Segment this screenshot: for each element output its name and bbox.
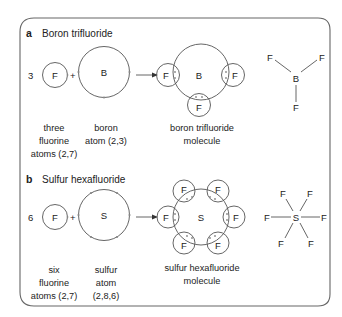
svg-text:F: F (308, 238, 314, 249)
coefficient: 3 (28, 70, 33, 81)
svg-text:S: S (198, 212, 204, 223)
svg-text:F: F (264, 212, 270, 223)
svg-text:F: F (321, 212, 327, 223)
svg-text:F: F (319, 52, 325, 63)
svg-text:molecule: molecule (184, 276, 221, 286)
label-reactant2: sulfur atom (2,8,6) (93, 265, 120, 301)
svg-text:F: F (181, 184, 187, 195)
svg-text:F: F (215, 184, 221, 195)
section-title: Sulfur hexafluoride (42, 174, 126, 185)
svg-text:B: B (293, 73, 299, 84)
svg-text:S: S (293, 212, 299, 223)
svg-text:six: six (48, 265, 60, 275)
svg-text:atom: atom (96, 278, 117, 288)
svg-text:(2,8,6): (2,8,6) (93, 291, 120, 301)
section-letter: a (26, 27, 32, 39)
svg-text:F: F (232, 70, 238, 81)
svg-text:boron: boron (94, 123, 118, 133)
svg-text:boron trifluoride: boron trifluoride (170, 123, 234, 133)
section-letter: b (26, 173, 32, 185)
svg-text:B: B (101, 67, 107, 78)
svg-text:fluorine: fluorine (39, 278, 69, 288)
svg-text:sulfur: sulfur (95, 265, 117, 275)
svg-text:F: F (293, 102, 299, 113)
svg-text:atoms (2,7): atoms (2,7) (31, 149, 77, 159)
svg-text:F: F (196, 102, 202, 113)
covalent-bonding-diagram: a Boron trifluoride 3 F + B B F (0, 0, 342, 317)
svg-text:F: F (233, 212, 239, 223)
coefficient: 6 (28, 212, 33, 223)
svg-text:F: F (163, 212, 169, 223)
section-title: Boron trifluoride (42, 28, 113, 39)
svg-text:F: F (267, 52, 273, 63)
svg-text:sulfur hexafluoride: sulfur hexafluoride (164, 263, 239, 273)
svg-text:F: F (307, 188, 313, 199)
svg-text:F: F (215, 240, 221, 251)
svg-text:atom (2,3): atom (2,3) (85, 136, 127, 146)
svg-text:F: F (278, 238, 284, 249)
svg-text:F: F (181, 240, 187, 251)
svg-text:F: F (52, 70, 58, 81)
svg-text:molecule: molecule (184, 136, 221, 146)
plus-sign: + (70, 70, 76, 81)
svg-text:B: B (196, 70, 202, 81)
svg-text:S: S (101, 210, 107, 221)
svg-text:F: F (163, 70, 169, 81)
svg-text:three: three (44, 123, 65, 133)
svg-text:F: F (280, 188, 286, 199)
svg-text:atoms (2,7): atoms (2,7) (31, 291, 77, 301)
svg-text:F: F (52, 212, 58, 223)
plus-sign: + (70, 212, 76, 223)
svg-text:fluorine: fluorine (39, 136, 69, 146)
